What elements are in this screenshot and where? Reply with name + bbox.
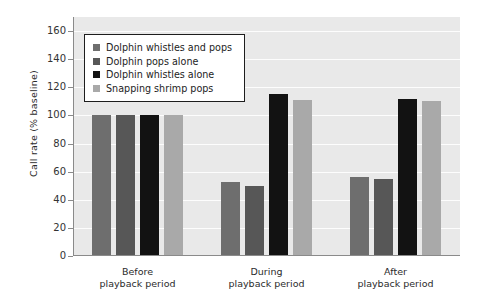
legend-item-label: Dolphin whistles and pops <box>106 42 232 53</box>
y-axis-tick-mark <box>68 59 73 60</box>
legend-item-label: Snapping shrimp pops <box>106 83 213 94</box>
x-axis-group-label-line: playback period <box>78 278 198 290</box>
x-axis-group-label: Beforeplayback period <box>78 266 198 290</box>
legend-item-label: Dolphin pops alone <box>106 56 198 67</box>
legend-item: Snapping shrimp pops <box>93 82 232 96</box>
x-axis-group-label-line: After <box>336 266 456 278</box>
y-axis-tick-label: 100 <box>28 110 66 120</box>
legend-item: Dolphin whistles and pops <box>93 41 232 55</box>
x-axis-group-label-line: During <box>207 266 327 278</box>
y-axis-tick-label: 40 <box>28 195 66 205</box>
legend-swatch-icon <box>93 58 100 65</box>
y-axis-tick-label: 80 <box>28 139 66 149</box>
bar-chart: Call rate (% baseline) 02040608010012014… <box>0 0 500 306</box>
x-axis-group-label: Afterplayback period <box>336 266 456 290</box>
x-axis-group-label-line: playback period <box>207 278 327 290</box>
y-axis-ticks: 020406080100120140160 <box>0 0 500 306</box>
x-axis-group-label-line: playback period <box>336 278 456 290</box>
y-axis-tick-mark <box>68 87 73 88</box>
legend-item-label: Dolphin whistles alone <box>106 69 214 80</box>
legend-swatch-icon <box>93 44 100 51</box>
y-axis-tick-label: 0 <box>28 251 66 261</box>
y-axis-tick-label: 140 <box>28 54 66 64</box>
legend-swatch-icon <box>93 85 100 92</box>
x-axis-group-label-line: Before <box>78 266 198 278</box>
y-axis-tick-mark <box>68 172 73 173</box>
y-axis-tick-mark <box>68 228 73 229</box>
y-axis-tick-mark <box>68 256 73 257</box>
y-axis-tick-mark <box>68 115 73 116</box>
y-axis-tick-mark <box>68 144 73 145</box>
y-axis-tick-label: 60 <box>28 167 66 177</box>
y-axis-tick-label: 160 <box>28 26 66 36</box>
y-axis-tick-label: 120 <box>28 82 66 92</box>
legend-item: Dolphin whistles alone <box>93 68 232 82</box>
legend-item: Dolphin pops alone <box>93 55 232 69</box>
y-axis-tick-mark <box>68 31 73 32</box>
y-axis-tick-mark <box>68 200 73 201</box>
chart-legend: Dolphin whistles and popsDolphin pops al… <box>84 34 245 102</box>
y-axis-tick-label: 20 <box>28 223 66 233</box>
legend-swatch-icon <box>93 71 100 78</box>
x-axis-group-label: Duringplayback period <box>207 266 327 290</box>
